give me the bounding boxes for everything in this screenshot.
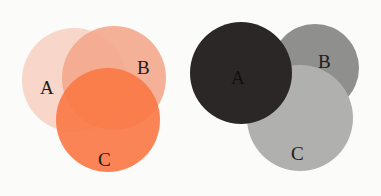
- label-c: C: [291, 143, 304, 164]
- label-a: A: [40, 77, 54, 98]
- grayscale-venn-diagram: A B C: [190, 22, 359, 171]
- label-b: B: [137, 57, 150, 78]
- venn-diagrams: A B C A B C: [0, 0, 381, 196]
- color-venn-diagram: A B C: [22, 26, 166, 172]
- label-a: A: [231, 67, 245, 88]
- label-c: C: [98, 149, 111, 170]
- label-b: B: [318, 51, 331, 72]
